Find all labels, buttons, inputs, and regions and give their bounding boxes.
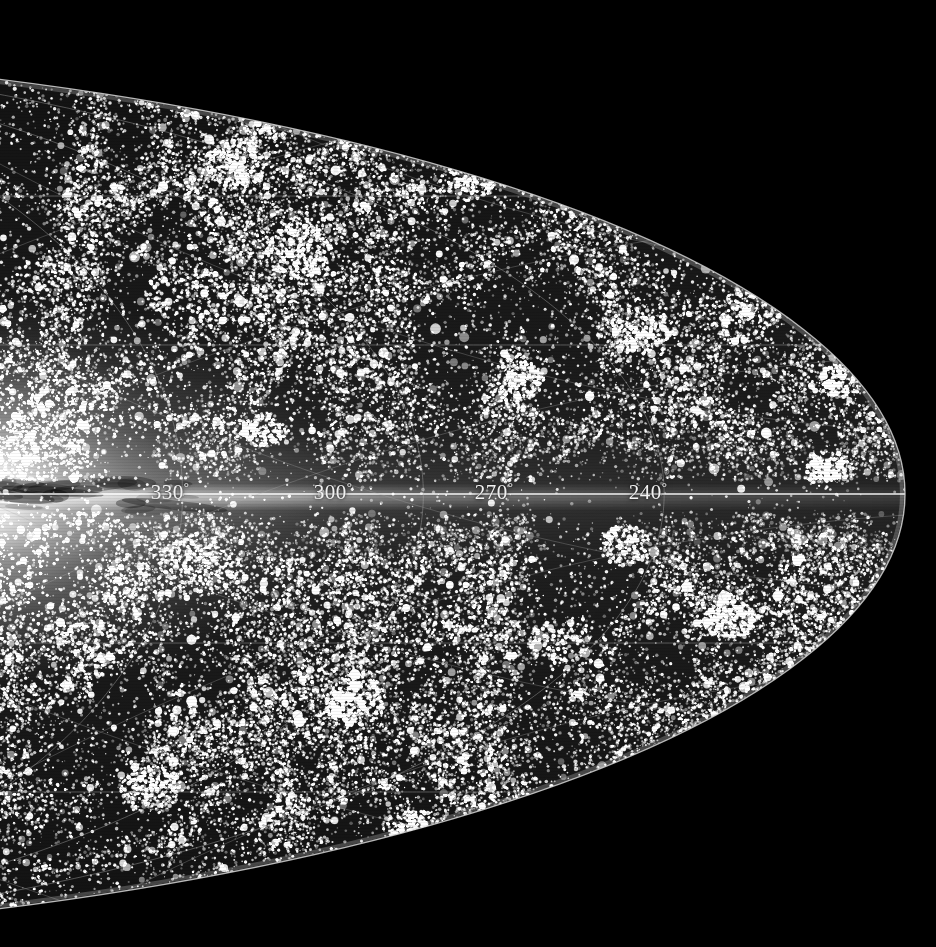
- sky-map-figure: 330°300°270°240°: [0, 0, 936, 947]
- sky-map-canvas: [0, 0, 936, 947]
